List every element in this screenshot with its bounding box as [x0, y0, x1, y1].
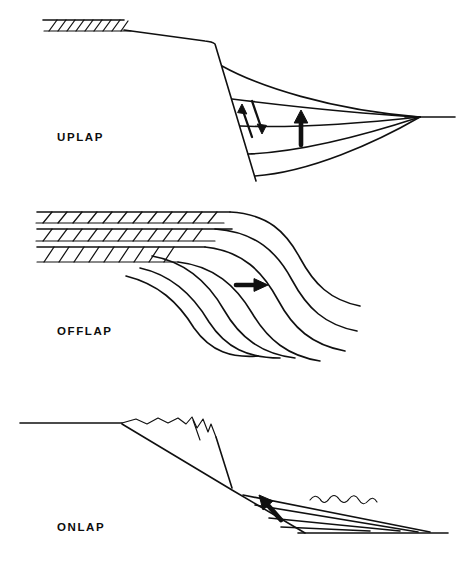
- offlap-clinoform-curve-1: [230, 212, 360, 306]
- diagram-canvas: [0, 0, 461, 562]
- offlap-clinoform-curve-4: [178, 262, 320, 361]
- panel-label-uplap: UPLAP: [57, 131, 104, 143]
- uplift-arrow: [294, 110, 308, 145]
- panel-label-onlap: ONLAP: [57, 521, 105, 533]
- uplap-shelf-surface: [124, 30, 256, 181]
- panel-offlap: [36, 212, 360, 361]
- panel-label-offlap: OFFLAP: [57, 325, 113, 337]
- uplap-reflector-curve-4: [248, 117, 420, 154]
- hatched-topset-band-3: [37, 247, 205, 262]
- progradation-arrow: [236, 279, 268, 292]
- ridge-inner-line: [193, 420, 200, 440]
- panel-onlap: [20, 417, 448, 533]
- hatched-topset-band-1: [36, 212, 230, 223]
- hatched-shelf-band: [43, 20, 131, 31]
- panel-uplap: [43, 20, 455, 181]
- eroded-ridge-crest: [122, 417, 216, 437]
- onlap-ridge-base-line: [216, 437, 232, 488]
- offlap-clinoform-curve-3: [205, 247, 345, 351]
- seabed-squiggle: [310, 496, 377, 504]
- offlap-clinoform-curve-2: [215, 229, 357, 331]
- figure-root: UPLAP OFFLAP ONLAP: [0, 0, 461, 562]
- offlap-clinoform-curve-7: [126, 276, 258, 356]
- onlap-layer-4: [281, 527, 370, 531]
- onlap-arrow: [259, 495, 281, 520]
- offlap-clinoform-curve-5: [152, 256, 295, 358]
- hatched-topset-band-2: [36, 229, 232, 241]
